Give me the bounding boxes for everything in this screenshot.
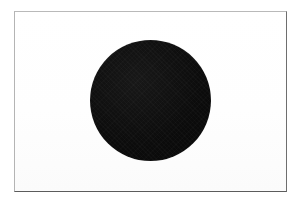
image-canvas: Flag of Japan	[0, 0, 304, 202]
flag-rectangle	[14, 11, 287, 192]
flag-disc	[90, 40, 211, 161]
image-alt-text: Flag of Japan	[0, 0, 1, 1]
